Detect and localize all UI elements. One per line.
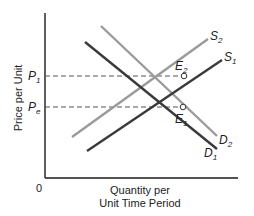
demand-curve-d1	[85, 42, 217, 149]
chart: P1 Pe S2 S1 D2 D1 E2 E1 0 Quantity per U…	[0, 0, 254, 216]
y-tick-p1: P1	[28, 69, 40, 85]
y-axis-label: Price per Unit	[12, 65, 24, 132]
equilibrium-e1-marker	[180, 104, 186, 110]
x-axis-label-line2: Unit Time Period	[99, 197, 180, 209]
y-tick-pe: Pe	[28, 100, 41, 116]
demand-curve-d2	[101, 26, 217, 136]
label-s1: S1	[224, 50, 236, 66]
origin-label: 0	[36, 182, 42, 194]
label-e2: E2	[175, 59, 188, 75]
label-e1: E1	[175, 112, 187, 128]
label-s2: S2	[210, 29, 223, 45]
label-d2: D2	[219, 133, 233, 149]
x-axis-label-line1: Quantity per	[110, 184, 170, 196]
